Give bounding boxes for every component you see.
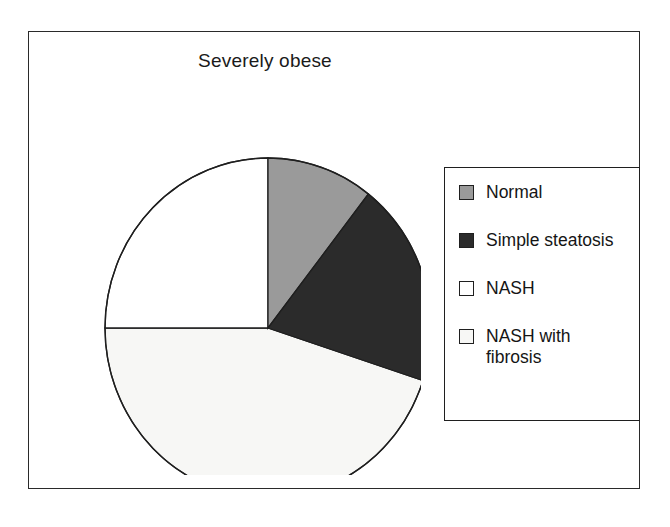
legend-swatch-simple-steatosis xyxy=(459,233,474,248)
pie-chart-svg xyxy=(77,127,421,475)
pie-slice-nash[interactable] xyxy=(105,158,268,328)
legend-item-normal[interactable]: Normal xyxy=(445,182,639,202)
chart-frame: Severely obese Normal xyxy=(28,31,640,489)
legend-swatch-nash-with-fibrosis xyxy=(459,329,474,344)
legend-item-simple-steatosis[interactable]: Simple steatosis xyxy=(445,230,639,250)
legend-label-nash: NASH xyxy=(486,278,535,298)
legend-label-normal: Normal xyxy=(486,182,542,202)
legend-item-nash[interactable]: NASH xyxy=(445,278,639,298)
pie-chart xyxy=(77,127,421,475)
legend-swatch-nash xyxy=(459,281,474,296)
legend-label-simple-steatosis: Simple steatosis xyxy=(486,230,613,250)
legend-label-nash-with-fibrosis: NASH with fibrosis xyxy=(486,326,571,366)
legend-label-nash-with-fibrosis-line1: NASH with xyxy=(486,326,571,346)
figure-root: Severely obese Normal xyxy=(0,0,670,527)
chart-title-text: Severely obese xyxy=(65,50,465,72)
legend-label-nash-with-fibrosis-line2: fibrosis xyxy=(486,347,571,367)
legend-item-nash-with-fibrosis[interactable]: NASH with fibrosis xyxy=(445,326,639,366)
legend: Normal Simple steatosis NASH NASH with f… xyxy=(444,167,640,421)
legend-swatch-normal xyxy=(459,185,474,200)
